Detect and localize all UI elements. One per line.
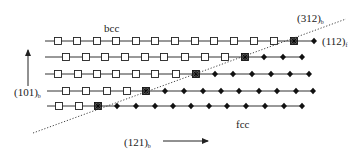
fcc-atom-marker <box>280 54 286 60</box>
bcc-label: bcc <box>104 22 119 34</box>
bcc-atom-marker <box>251 38 258 45</box>
fcc-atom-marker <box>299 103 305 109</box>
fcc-atom-marker <box>261 54 267 60</box>
bcc-atom-marker <box>222 54 229 61</box>
atom-row <box>45 38 317 45</box>
interface-atom-marker <box>291 38 298 45</box>
vertical-axis-label: (101)b <box>14 86 41 99</box>
interface-atom-marker <box>95 103 102 110</box>
bcc-atom-marker <box>142 54 149 61</box>
fcc-label: fcc <box>236 118 250 130</box>
fcc-atom-marker <box>212 71 218 77</box>
atom-row <box>47 88 316 95</box>
bcc-atom-marker <box>94 71 101 78</box>
atom-row <box>47 103 305 110</box>
bcc-atom-marker <box>133 71 140 78</box>
bcc-atom-marker <box>152 38 159 45</box>
fcc-atom-marker <box>114 103 120 109</box>
fcc-atom-marker <box>181 88 187 94</box>
bcc-atom-marker <box>83 54 90 61</box>
bcc-atom-marker <box>102 54 109 61</box>
bcc-atom-marker <box>74 38 81 45</box>
atom-row <box>45 54 305 61</box>
fcc-atom-marker <box>218 88 224 94</box>
bcc-atom-marker <box>124 88 131 95</box>
fcc-plane-label: (112)f <box>322 35 347 48</box>
bcc-atom-marker <box>122 54 129 61</box>
bcc-atom-marker <box>63 54 70 61</box>
bcc-atom-marker <box>172 38 179 45</box>
fcc-atom-marker <box>306 71 312 77</box>
bcc-atom-marker <box>231 38 238 45</box>
bcc-atom-marker <box>113 38 120 45</box>
bcc-atom-marker <box>202 54 209 61</box>
fcc-atom-marker <box>281 103 287 109</box>
interface-atom-marker <box>143 88 150 95</box>
fcc-atom-marker <box>299 54 305 60</box>
fcc-atom-marker <box>274 88 280 94</box>
bcc-atom-marker <box>192 38 199 45</box>
atom-rows <box>45 38 317 110</box>
fcc-atom-marker <box>162 88 168 94</box>
bcc-atom-marker <box>211 38 218 45</box>
atom-row <box>45 71 312 78</box>
fcc-atom-marker <box>293 88 299 94</box>
fcc-atom-marker <box>249 71 255 77</box>
bcc-atom-marker <box>55 71 62 78</box>
bcc-atom-marker <box>152 71 159 78</box>
bcc-atom-marker <box>182 54 189 61</box>
fcc-atom-marker <box>206 103 212 109</box>
fcc-atom-marker <box>262 103 268 109</box>
fcc-atom-marker <box>311 38 317 44</box>
bcc-atom-marker <box>161 54 168 61</box>
fcc-atom-marker <box>133 103 139 109</box>
fcc-atom-marker <box>200 88 206 94</box>
bcc-atom-marker <box>104 88 111 95</box>
bcc-atom-marker <box>133 38 140 45</box>
horizontal-axis-label: (121)b <box>124 136 151 149</box>
bcc-atom-marker <box>271 38 278 45</box>
bcc-atom-marker <box>75 71 82 78</box>
bcc-atom-marker <box>56 103 63 110</box>
fcc-atom-marker <box>287 71 293 77</box>
bcc-atom-marker <box>173 71 180 78</box>
bcc-atom-marker <box>63 88 70 95</box>
fcc-atom-marker <box>310 88 316 94</box>
bcc-atom-marker <box>55 38 62 45</box>
fcc-atom-marker <box>170 103 176 109</box>
bcc-fcc-interface-diagram: bcc fcc (101)b (121)b (312)b (112)f <box>0 0 361 153</box>
interface-plane-label: (312)b <box>297 12 324 25</box>
fcc-atom-marker <box>268 71 274 77</box>
fcc-atom-marker <box>243 103 249 109</box>
fcc-atom-marker <box>230 71 236 77</box>
fcc-atom-marker <box>256 88 262 94</box>
fcc-atom-marker <box>188 103 194 109</box>
bcc-atom-marker <box>113 71 120 78</box>
bcc-atom-marker <box>76 103 83 110</box>
fcc-atom-marker <box>236 88 242 94</box>
fcc-atom-marker <box>224 103 230 109</box>
fcc-atom-marker <box>152 103 158 109</box>
bcc-atom-marker <box>94 38 101 45</box>
bcc-atom-marker <box>83 88 90 95</box>
